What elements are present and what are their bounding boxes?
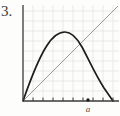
x-point-label: a: [86, 104, 91, 114]
plot-area: a: [0, 0, 120, 116]
grid-vertical: [33, 5, 113, 101]
grid-horizontal: [23, 11, 119, 91]
curve-path: [23, 32, 113, 101]
figure-container: 3.: [0, 0, 120, 116]
point-a-marker: [86, 98, 89, 101]
